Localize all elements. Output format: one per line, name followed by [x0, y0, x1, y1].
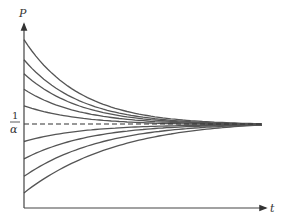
equilibrium-label-numerator: 1: [12, 110, 18, 121]
solution-curves-chart: P t 1 α: [0, 0, 288, 223]
solution-curve-below-4: [24, 125, 262, 193]
solution-curve-below-3: [24, 125, 262, 176]
solution-curves: [24, 40, 262, 193]
equilibrium-label-denominator: α: [10, 123, 18, 136]
solution-curve-below-2: [24, 125, 262, 159]
solution-curve-above-1: [24, 40, 262, 124]
x-axis-label: t: [270, 202, 275, 215]
y-axis-label: P: [18, 7, 27, 20]
